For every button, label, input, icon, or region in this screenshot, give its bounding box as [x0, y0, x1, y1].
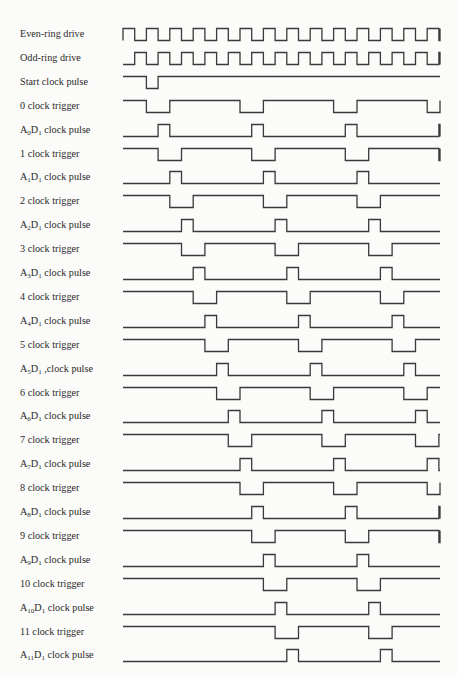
- waveform-14: [123, 364, 440, 376]
- waveform-10: [123, 268, 440, 280]
- waveform-19: [123, 483, 440, 495]
- waveform-26: [123, 650, 440, 662]
- waveform-3: [123, 101, 440, 113]
- waveform-0: [123, 29, 440, 41]
- waveform-13: [123, 340, 440, 352]
- waveform-12: [123, 316, 440, 328]
- waveform-9: [123, 244, 440, 256]
- waveform-1: [123, 53, 440, 65]
- waveform-21: [123, 531, 440, 543]
- timing-waveforms: [0, 0, 457, 677]
- waveform-18: [123, 459, 440, 471]
- waveform-5: [123, 149, 440, 161]
- waveform-11: [123, 292, 440, 304]
- waveform-25: [123, 627, 440, 639]
- waveform-16: [123, 411, 440, 423]
- waveform-4: [123, 125, 440, 137]
- waveform-22: [123, 555, 440, 567]
- waveform-20: [123, 507, 440, 519]
- waveform-17: [123, 435, 440, 447]
- waveform-7: [123, 196, 440, 208]
- waveform-2: [123, 77, 440, 89]
- waveform-8: [123, 220, 440, 232]
- waveform-15: [123, 388, 440, 400]
- waveform-23: [123, 579, 440, 591]
- waveform-6: [123, 172, 440, 184]
- waveform-24: [123, 603, 440, 615]
